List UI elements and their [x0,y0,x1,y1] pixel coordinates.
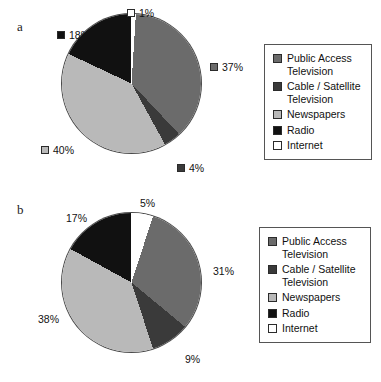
pie-label-public-access-television-b: 31% [213,266,234,277]
legend-swatch-internet [273,141,282,150]
legend-label-newspapers: Newspapers [282,291,340,304]
panel-letter-a: a [17,20,23,33]
legend-item-radio-b: Radio [268,307,361,320]
pie-label-text-radio-a: 18% [69,30,90,41]
legend-item-newspapers-b: Newspapers [268,291,361,304]
legend-item-radio-a: Radio [273,124,362,137]
pie-label-internet-a: 1% [127,8,154,19]
pie-label-text-radio-b: 17% [66,213,87,224]
pie-label-text-internet-a: 1% [139,8,154,19]
legend-label-radio: Radio [287,124,314,137]
legend-swatch-cable-satellite-television [268,265,277,274]
legend-swatch-public-access-television [268,237,277,246]
legend-swatch-cable-satellite-television [273,82,282,91]
pie-label-text-cable-satellite-television-b: 9% [185,354,200,365]
pie-label-swatch-radio-a [57,31,65,39]
pie-label-text-newspapers-b: 38% [38,314,59,325]
legend-label-public-access-television: Public Access Television [287,52,362,77]
pie-label-text-newspapers-a: 40% [53,145,74,156]
legend-label-public-access-television: Public Access Television [282,235,361,260]
pie-label-text-internet-b: 5% [140,198,155,209]
legend-item-cable-satellite-television-a: Cable / Satellite Television [273,80,362,105]
legend-item-public-access-television-a: Public Access Television [273,52,362,77]
pie-chart-b [62,213,201,352]
legend-swatch-newspapers [273,110,282,119]
legend-item-cable-satellite-television-b: Cable / Satellite Television [268,263,361,288]
legend-swatch-public-access-television [273,54,282,63]
legend-swatch-internet [268,324,277,333]
pie-label-radio-b: 17% [66,213,87,224]
figure-panel-b: b 5% 31% 9% 38% 17% Public Access Televi… [0,191,381,382]
pie-label-public-access-television-a: 37% [210,62,243,73]
pie-label-radio-a: 18% [57,30,90,41]
pie-label-cable-satellite-television-b: 9% [185,354,200,365]
legend-label-internet: Internet [287,139,323,152]
pie-label-swatch-internet-a [127,9,135,17]
legend-a: Public Access Television Cable / Satelli… [264,44,372,160]
pie-label-cable-satellite-television-a: 4% [177,163,204,174]
legend-item-newspapers-a: Newspapers [273,108,362,121]
pie-label-newspapers-b: 38% [38,314,59,325]
pie-label-swatch-cable-satellite-television-a [177,164,185,172]
legend-label-radio: Radio [282,307,309,320]
legend-swatch-radio [268,309,277,318]
pie-label-text-public-access-television-b: 31% [213,266,234,277]
pie-label-text-public-access-television-a: 37% [222,62,243,73]
pie-label-text-cable-satellite-television-a: 4% [189,163,204,174]
legend-item-internet-b: Internet [268,322,361,335]
legend-item-internet-a: Internet [273,139,362,152]
legend-item-public-access-television-b: Public Access Television [268,235,361,260]
legend-label-cable-satellite-television: Cable / Satellite Television [287,80,362,105]
legend-b: Public Access Television Cable / Satelli… [259,227,371,343]
pie-label-swatch-public-access-television-a [210,63,218,71]
pie-label-internet-b: 5% [140,198,155,209]
figure-panel-a: a 1% 37% 4% 40% 18% Public Access Televi… [0,0,381,191]
legend-swatch-newspapers [268,293,277,302]
pie-label-newspapers-a: 40% [41,145,74,156]
pie-label-swatch-newspapers-a [41,146,49,154]
legend-label-internet: Internet [282,322,318,335]
legend-label-cable-satellite-television: Cable / Satellite Television [282,263,361,288]
legend-label-newspapers: Newspapers [287,108,345,121]
pie-chart-b-wrapper [62,213,201,352]
panel-letter-b: b [17,203,24,216]
legend-swatch-radio [273,126,282,135]
